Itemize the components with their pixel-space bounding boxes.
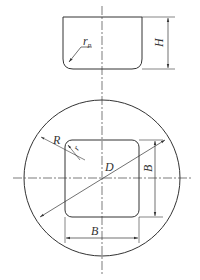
r-outer-label: R <box>52 133 61 147</box>
rp-leader <box>69 47 92 62</box>
technical-drawing: rp H R r D B B <box>0 0 200 280</box>
top-view-profile <box>63 17 142 69</box>
b-bottom-label: B <box>91 224 99 238</box>
d-label: D <box>104 160 114 174</box>
h-label: H <box>152 37 166 48</box>
b-right-label: B <box>141 164 155 172</box>
rp-label: rp <box>83 34 92 49</box>
d-dimension-line <box>40 140 165 217</box>
